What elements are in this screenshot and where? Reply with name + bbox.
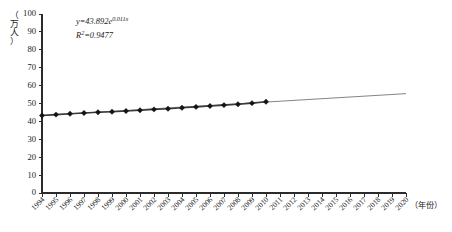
x-axis-tick-label: 1997: [71, 195, 88, 212]
x-axis-tick-label: 2018: [365, 195, 382, 212]
x-axis-tick-label: 2016: [337, 195, 354, 212]
data-point-marker: [53, 112, 58, 117]
data-point-marker: [235, 102, 240, 107]
x-axis-tick-label: 2014: [309, 195, 326, 212]
r-squared-annotation: R2=0.9477: [75, 29, 114, 41]
data-point-marker: [95, 110, 100, 115]
data-point-marker: [221, 102, 226, 107]
data-point-markers: [39, 99, 268, 118]
x-axis-tick-label: 2003: [155, 195, 172, 212]
x-axis-ticks: 1994199519961997199819992000200120022003…: [29, 193, 410, 212]
x-axis-tick-label: 2012: [281, 195, 298, 212]
data-point-marker: [67, 111, 72, 116]
chart-container: （ 万 人 ） （年份） 0102030405060708090100 1994…: [0, 0, 452, 232]
y-axis-tick-label: 10: [27, 170, 36, 180]
x-axis-tick-label: 2008: [225, 195, 242, 212]
y-axis-tick-label: 80: [27, 44, 36, 54]
data-point-marker: [39, 113, 44, 118]
x-axis-tick-label: 1994: [29, 195, 46, 212]
y-axis-tick-label: 40: [27, 116, 36, 126]
y-axis-tick-label: 60: [27, 80, 36, 90]
x-axis-tick-label: 2009: [239, 195, 256, 212]
x-axis-tick-label: 2000: [113, 195, 130, 212]
x-axis-tick-label: 2004: [169, 195, 186, 212]
y-axis-tick-label: 0: [32, 187, 36, 197]
data-point-marker: [109, 109, 114, 114]
x-axis-tick-label: 2006: [197, 195, 214, 212]
x-axis-tick-label: 2005: [183, 195, 200, 212]
y-axis-tick-label: 70: [27, 62, 36, 72]
annotation-group: y=43.892e0.011x R2=0.9477: [75, 15, 129, 41]
x-axis-tick-label: 1995: [43, 195, 60, 212]
chart-plot-area: 0102030405060708090100 19941995199619971…: [0, 0, 452, 232]
data-point-marker: [193, 104, 198, 109]
x-axis-tick-label: 2010: [253, 195, 270, 212]
y-axis-tick-label: 100: [23, 8, 36, 18]
data-point-marker: [123, 108, 128, 113]
data-point-marker: [137, 108, 142, 113]
x-axis-tick-label: 2011: [268, 195, 285, 212]
x-axis-tick-label: 2019: [379, 195, 396, 212]
data-point-marker: [179, 105, 184, 110]
data-series-group: [39, 94, 406, 119]
x-axis-tick-label: 2015: [323, 195, 340, 212]
data-point-marker: [207, 103, 212, 108]
x-axis-group: 1994199519961997199819992000200120022003…: [29, 193, 410, 212]
x-axis-tick-label: 2017: [351, 195, 368, 212]
y-axis-group: 0102030405060708090100: [23, 8, 42, 197]
y-axis-ticks: 0102030405060708090100: [23, 8, 42, 197]
x-axis-tick-label: 2001: [127, 195, 144, 212]
y-axis-tick-label: 50: [27, 98, 36, 108]
y-axis-tick-label: 90: [27, 26, 36, 36]
x-axis-tick-label: 2002: [141, 195, 158, 212]
x-axis-tick-label: 2013: [295, 195, 312, 212]
x-axis-tick-label: 2020: [393, 195, 410, 212]
data-point-marker: [81, 110, 86, 115]
x-axis-tick-label: 1996: [57, 195, 74, 212]
equation-annotation: y=43.892e0.011x: [75, 15, 129, 27]
data-point-marker: [263, 99, 268, 104]
y-axis-tick-label: 20: [27, 152, 36, 162]
x-axis-tick-label: 1999: [99, 195, 116, 212]
y-axis-tick-label: 30: [27, 134, 36, 144]
data-point-marker: [165, 106, 170, 111]
data-point-marker: [249, 100, 254, 105]
x-axis-tick-label: 1998: [85, 195, 102, 212]
x-axis-tick-label: 2007: [211, 195, 228, 212]
data-point-marker: [151, 107, 156, 112]
